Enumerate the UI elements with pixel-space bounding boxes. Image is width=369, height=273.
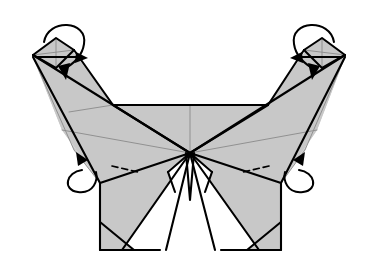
origami-figure — [0, 0, 369, 273]
origami-diagram — [0, 0, 369, 273]
